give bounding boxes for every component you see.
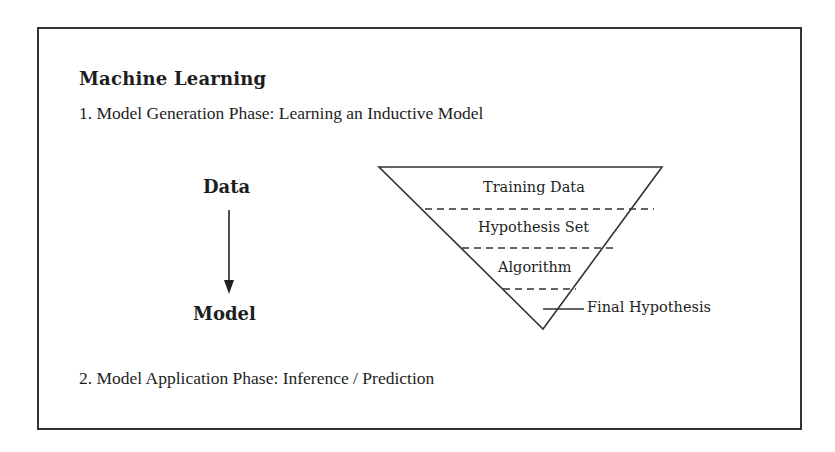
down-arrow-icon bbox=[224, 210, 234, 294]
funnel-layer-training-data: Training Data bbox=[483, 179, 585, 195]
phase-2-label: 2. Model Application Phase: Inference / … bbox=[79, 368, 434, 389]
funnel-layer-algorithm: Algorithm bbox=[498, 259, 572, 275]
funnel-layer-hypothesis-set: Hypothesis Set bbox=[478, 219, 589, 235]
final-hypothesis-label: Final Hypothesis bbox=[587, 299, 711, 315]
